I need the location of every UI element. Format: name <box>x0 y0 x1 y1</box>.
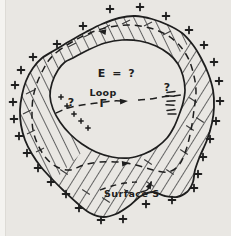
question-mark-right: ? <box>164 81 170 94</box>
loop-gamma-label: Γ <box>99 97 106 110</box>
question-mark-left: ? <box>68 96 74 109</box>
surface-s-label: Surface S <box>104 188 160 199</box>
paper-left-edge <box>0 0 5 236</box>
figure-canvas: E = ? Loop Γ Surface S ? ? <box>0 0 231 236</box>
conductor-cavity-diagram: E = ? Loop Γ Surface S ? ? <box>0 0 231 236</box>
field-question-label: E = ? <box>98 67 136 80</box>
